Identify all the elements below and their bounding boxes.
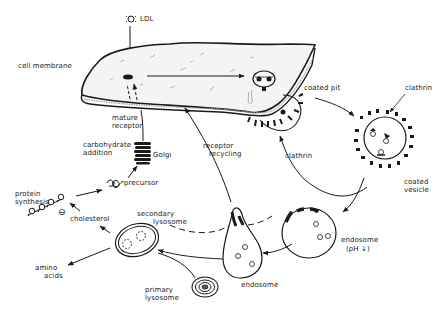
label-amino-acids-2: acids [44,272,63,280]
label-mature-receptor-1: mature [112,114,138,122]
label-primary-lysosome-1: primary [145,286,173,294]
amino-acid-release-arrow [68,248,110,265]
label-golgi: Golgi [153,151,172,159]
label-cell-membrane: cell membrane [18,62,72,70]
endosome-left-icon [223,208,262,278]
inhibition-icon: ⊖ [58,208,66,216]
label-endosome-left: endosome [241,281,278,289]
label-cholesterol: cholesterol [70,215,110,223]
label-receptor-recycling-2: recycling [209,150,242,158]
lysosome-fusion-arrow [158,250,223,259]
coated-vesicle-icon [354,109,414,168]
label-secondary-lysosome-1: secondary [137,210,174,218]
cell-membrane-slab [81,43,315,116]
vesicle-budding-arrow [315,98,354,116]
cholesterol-release-arrow [100,226,110,233]
label-clathrin-mid: clathrin [285,152,312,160]
label-amino-acids-1: amino [35,264,57,272]
uncoating-arrow [343,178,364,212]
label-coated-vesicle-1: coated [404,178,429,186]
label-ldl: LDL [140,15,154,23]
endocytosis-diagram: LDL cell membrane coated pit clathrin co… [0,0,446,315]
label-mature-receptor-2: receptor [112,122,142,130]
label-endosome-right: endosome [341,236,378,244]
label-endosome-ph: (pH ↓) [346,245,370,253]
synthesis-arrow [76,190,102,196]
label-coated-pit: coated pit [304,84,340,92]
label-coated-vesicle-2: vesicle [404,186,429,194]
label-receptor-recycling-1: receptor [203,142,233,150]
label-carbohydrate-1: carbohydrate [83,141,131,149]
cholesterol-inhibition-arrow [70,203,80,211]
endosome-right-icon [282,208,336,258]
label-carbohydrate-2: addition [83,149,112,157]
precursor-protein-icon [107,180,124,188]
clathrin-recycling-arrow [280,136,367,196]
label-protein-synthesis-2: synthesis [15,198,49,206]
label-primary-lysosome-2: lysosome [145,294,179,302]
ldl-particle-icon [126,16,136,22]
receptor-spot [123,75,133,80]
primary-lysosome-icon [192,277,218,297]
golgi-icon [134,142,151,165]
precursor-to-golgi-arrow [128,166,137,178]
label-clathrin-top: clathrin [405,84,432,92]
label-protein-synthesis-1: protein [15,190,41,198]
label-precursor: precursor [124,179,158,187]
clathrin-pointer [390,94,405,112]
label-secondary-lysosome-2: lysosome [153,218,187,226]
